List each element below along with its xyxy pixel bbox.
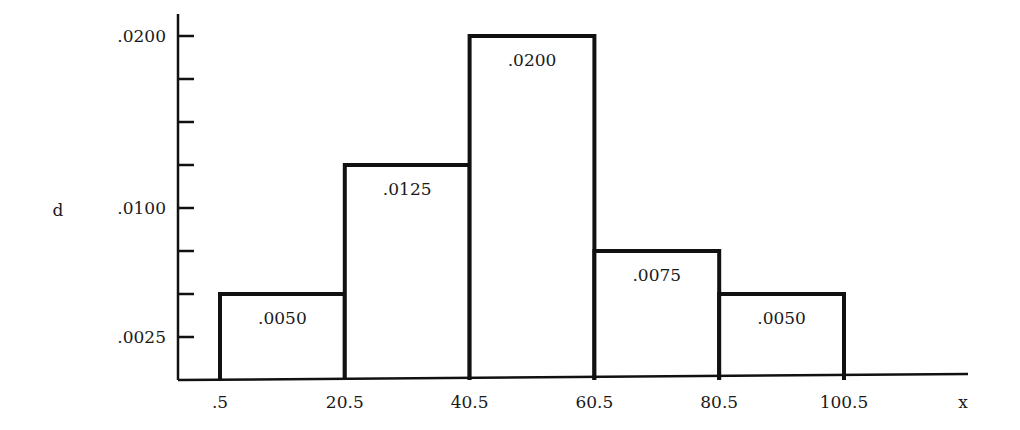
bar-value-label: .0075 xyxy=(632,265,681,285)
histogram-bar xyxy=(470,36,595,380)
x-tick-label: 100.5 xyxy=(820,392,869,412)
histogram-bar xyxy=(220,294,345,380)
histogram-chart: .0025.0100.0200.0050.0125.0200.0075.0050… xyxy=(0,0,1020,430)
bar-value-label: .0125 xyxy=(383,179,432,199)
bar-value-label: .0050 xyxy=(757,308,806,328)
y-ticks xyxy=(178,36,194,337)
x-tick-label: 40.5 xyxy=(451,392,489,412)
x-tick-label: 80.5 xyxy=(700,392,738,412)
y-axis-label: d xyxy=(53,200,64,220)
bars-layer xyxy=(220,36,844,380)
y-tick-label: .0025 xyxy=(117,327,166,347)
x-axis-label: x xyxy=(958,392,968,412)
bar-value-label: .0050 xyxy=(258,308,307,328)
bar-value-label: .0200 xyxy=(508,50,557,70)
y-tick-label: .0200 xyxy=(117,26,166,46)
histogram-bar xyxy=(719,294,844,380)
x-tick-label: 20.5 xyxy=(326,392,364,412)
x-tick-label: .5 xyxy=(212,392,228,412)
x-tick-label: 60.5 xyxy=(575,392,613,412)
y-tick-label: .0100 xyxy=(117,198,166,218)
